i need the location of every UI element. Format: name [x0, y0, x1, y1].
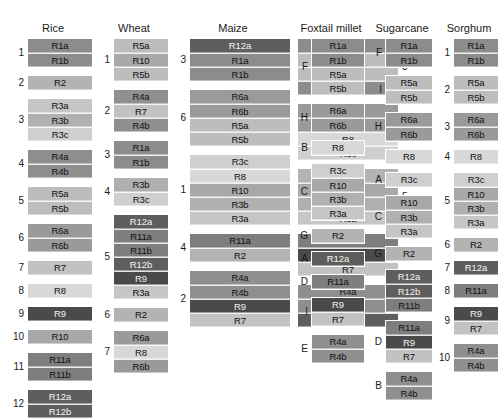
synteny-block: R1a — [190, 53, 290, 67]
chromosome-group: 1R5aR10R5b — [96, 38, 169, 82]
chromosome-group: HR6aR6b — [368, 112, 433, 142]
group-spacer — [294, 244, 365, 251]
group-spacer — [10, 299, 93, 306]
chromosome-label: 7 — [436, 263, 453, 273]
synteny-block: R3c — [114, 192, 168, 206]
synteny-block: R11b — [114, 243, 168, 257]
synteny-block: R5b — [28, 201, 92, 215]
group-spacer — [368, 142, 433, 149]
synteny-block: R3b — [312, 192, 364, 206]
chromosome-group: 7R7 — [10, 260, 93, 276]
block-stack: R3bR3c — [113, 177, 169, 207]
block-stack: R10 — [27, 329, 93, 345]
synteny-block: R12a — [386, 270, 432, 284]
synteny-block: R4a — [312, 335, 364, 349]
synteny-block: R4b — [312, 349, 364, 363]
synteny-block: R5a — [386, 76, 432, 90]
synteny-block: R10 — [190, 183, 290, 197]
synteny-block: R11b — [28, 367, 92, 381]
group-spacer — [10, 345, 93, 352]
block-stack: R12a — [311, 251, 365, 267]
chromosome-label: 3 — [172, 55, 189, 65]
synteny-block: R7 — [28, 261, 92, 275]
synteny-block: R11a — [386, 321, 432, 335]
group-spacer — [10, 216, 93, 223]
subcolumn-container: FR1aR1bIR5aR5bHR6aR6bR8AR3cCR10R3bR3aGR2… — [368, 38, 433, 401]
group-spacer — [96, 300, 169, 307]
synteny-block: R5a — [312, 67, 364, 81]
chromosome-group: AR12a — [294, 251, 365, 267]
synteny-block: R4b — [386, 386, 432, 400]
chromosome-group: FR1aR1bR5aR5b — [294, 38, 365, 96]
chromosome-group: 2R4aR7R4b — [96, 89, 169, 133]
chromosome-group: BR4aR4b — [368, 371, 433, 401]
block-stack: R6aR6bR5aR5b — [189, 89, 291, 147]
group-spacer — [368, 262, 433, 269]
block-stack: R12aR12bR11b — [385, 269, 433, 313]
block-stack: R2 — [27, 75, 93, 91]
chromosome-group: 6R2 — [96, 307, 169, 323]
block-stack: R3aR3bR3c — [27, 98, 93, 142]
group-spacer — [294, 267, 365, 274]
chromosome-label: H — [294, 113, 311, 123]
chromosome-label: 5 — [436, 196, 453, 206]
synteny-block: R6b — [312, 118, 364, 132]
synteny-block: R5a — [190, 118, 290, 132]
chromosome-label: 1 — [96, 55, 113, 65]
synteny-block: R8 — [312, 141, 364, 155]
chromosome-group: 8R11a — [436, 283, 499, 299]
group-spacer — [10, 68, 93, 75]
chromosome-label: 6 — [172, 113, 189, 123]
synteny-block: R3a — [312, 206, 364, 220]
block-stack: R12aR1aR1b — [189, 38, 291, 82]
synteny-block: R6b — [114, 359, 168, 373]
chromosome-label: G — [294, 231, 311, 241]
synteny-block: R9 — [312, 298, 364, 312]
block-stack: R5aR5b — [385, 75, 433, 105]
subcolumn: FR1aR1bR5aR5bHR6aR6bBR8CR3cR10R3bR3aGR2A… — [294, 38, 365, 364]
block-stack: R11aR11b — [27, 352, 93, 382]
synteny-block: R3a — [454, 215, 498, 229]
chromosome-group: 1R1aR1b — [10, 38, 93, 68]
synteny-block: R3b — [114, 178, 168, 192]
synteny-block: R5b — [114, 67, 168, 81]
chromosome-group: 6R6aR6b — [10, 223, 93, 253]
synteny-block: R5a — [28, 187, 92, 201]
chromosome-label: 1 — [436, 48, 453, 58]
block-stack: R2 — [311, 228, 365, 244]
synteny-block: R3b — [28, 113, 92, 127]
chromosome-label: 9 — [436, 316, 453, 326]
synteny-block: R7 — [312, 312, 364, 326]
subcolumn: FR1aR1bIR5aR5bHR6aR6bR8AR3cCR10R3bR3aGR2… — [368, 38, 433, 401]
species-title: Rice — [42, 22, 64, 34]
group-spacer — [436, 165, 499, 172]
chromosome-group: 3R12aR1aR1b — [172, 38, 291, 82]
block-stack: R1aR1b — [113, 140, 169, 170]
synteny-block: R6a — [312, 104, 364, 118]
synteny-block: R1a — [454, 39, 498, 53]
chromosome-group: CR3cR10R3bR3a — [294, 163, 365, 221]
block-stack: R6aR8R6b — [113, 330, 169, 374]
synteny-block: R4a — [114, 90, 168, 104]
species-title: Foxtail millet — [300, 22, 361, 34]
synteny-block: R12a — [312, 252, 364, 266]
subcolumn-container: FR1aR1bR5aR5bHR6aR6bBR8CR3cR10R3bR3aGR2A… — [294, 38, 365, 364]
chromosome-group: DR11aR9R7 — [368, 320, 433, 364]
synteny-block: R6a — [386, 113, 432, 127]
block-stack: R2 — [385, 246, 433, 262]
group-spacer — [96, 133, 169, 140]
synteny-block: R1a — [28, 39, 92, 53]
synteny-block: R3b — [190, 197, 290, 211]
subcolumn-container: 1R1aR1b2R5aR5b3R6aR6b4R85R3cR10R3bR3a6R2… — [436, 38, 499, 373]
group-spacer — [172, 263, 291, 270]
synteny-block: R6a — [28, 224, 92, 238]
group-spacer — [368, 68, 433, 75]
synteny-block: R5b — [190, 132, 290, 146]
chromosome-label: H — [368, 122, 385, 132]
chromosome-group: 6R6aR6bR5aR5b — [172, 89, 291, 147]
chromosome-label: 6 — [10, 233, 27, 243]
group-spacer — [368, 165, 433, 172]
block-stack: R12aR12b — [27, 389, 93, 419]
synteny-block: R6a — [114, 331, 168, 345]
block-stack: R4aR4b — [311, 334, 365, 364]
